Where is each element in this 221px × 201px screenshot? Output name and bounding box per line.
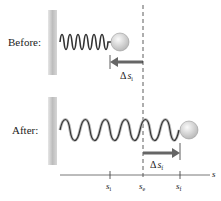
- wall-before: [48, 10, 57, 75]
- delta-sf-arrow: [143, 148, 180, 158]
- before-label: Before:: [8, 36, 41, 48]
- delta-si-label: Δsi: [120, 70, 133, 82]
- axis-label: s: [212, 169, 216, 179]
- delta-sf-label: Δsf: [150, 159, 163, 171]
- ball-after: [180, 121, 198, 139]
- spring-before: [60, 35, 111, 50]
- tick-sf: sf: [176, 181, 182, 192]
- spring-diagram: Before: Δsi After: Δsf s si se sf: [0, 0, 221, 201]
- ball-before: [111, 33, 129, 51]
- delta-si-arrow: [110, 57, 143, 67]
- spring-after: [60, 120, 179, 141]
- tick-se: se: [139, 181, 146, 192]
- wall-after: [48, 97, 57, 165]
- tick-si: si: [106, 181, 112, 192]
- after-label: After:: [12, 124, 38, 136]
